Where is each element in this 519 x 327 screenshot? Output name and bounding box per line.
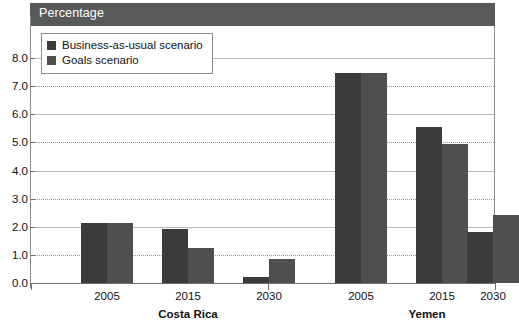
axis-group-separator <box>31 283 32 290</box>
bar-goals <box>442 144 468 283</box>
y-axis-tick-label: 4.0 <box>2 165 28 177</box>
bar-bau <box>243 277 269 283</box>
x-axis-year-label: 2030 <box>256 290 282 302</box>
y-axis-tick-label: 8.0 <box>2 52 28 64</box>
legend-item-goals: Goals scenario <box>47 53 203 68</box>
bar-goals <box>361 73 387 283</box>
y-axis-tick-label: 1.0 <box>2 249 28 261</box>
bar-goals <box>269 259 295 283</box>
bar-goals <box>188 248 214 283</box>
country-label: Yemen <box>408 308 445 320</box>
y-axis-tick-label: 5.0 <box>2 136 28 148</box>
x-axis-year-label: 2015 <box>429 290 455 302</box>
bar-bau <box>335 73 361 283</box>
y-axis-tick-labels: 0.01.02.03.04.05.06.07.08.0 <box>0 0 28 327</box>
legend-swatch-icon-bau <box>47 41 56 50</box>
y-axis-tick-label: 3.0 <box>2 193 28 205</box>
y-axis-tick-label: 7.0 <box>2 80 28 92</box>
bar-goals <box>493 215 519 283</box>
legend-swatch-icon-goals <box>47 56 56 65</box>
x-axis-year-label: 2005 <box>94 290 120 302</box>
y-axis-tick-label: 2.0 <box>2 221 28 233</box>
y-axis-tick-label: 6.0 <box>2 108 28 120</box>
country-label: Costa Rica <box>158 308 217 320</box>
x-axis-line <box>30 283 495 284</box>
axis-group-separator <box>268 283 269 290</box>
chart-legend: Business-as-usual scenario Goals scenari… <box>41 33 213 74</box>
bar-bau <box>162 229 188 283</box>
bar-bau <box>467 232 493 283</box>
bar-bau <box>416 127 442 283</box>
bar-bau <box>81 223 107 283</box>
bar-goals <box>107 223 133 283</box>
axis-group-separator <box>495 283 496 290</box>
x-axis-year-label: 2030 <box>480 290 506 302</box>
legend-item-bau: Business-as-usual scenario <box>47 38 203 53</box>
legend-label-bau: Business-as-usual scenario <box>62 38 203 53</box>
x-axis-year-label: 2015 <box>175 290 201 302</box>
x-axis-year-label: 2005 <box>348 290 374 302</box>
legend-label-goals: Goals scenario <box>62 53 139 68</box>
y-axis-tick-label: 0.0 <box>2 277 28 289</box>
